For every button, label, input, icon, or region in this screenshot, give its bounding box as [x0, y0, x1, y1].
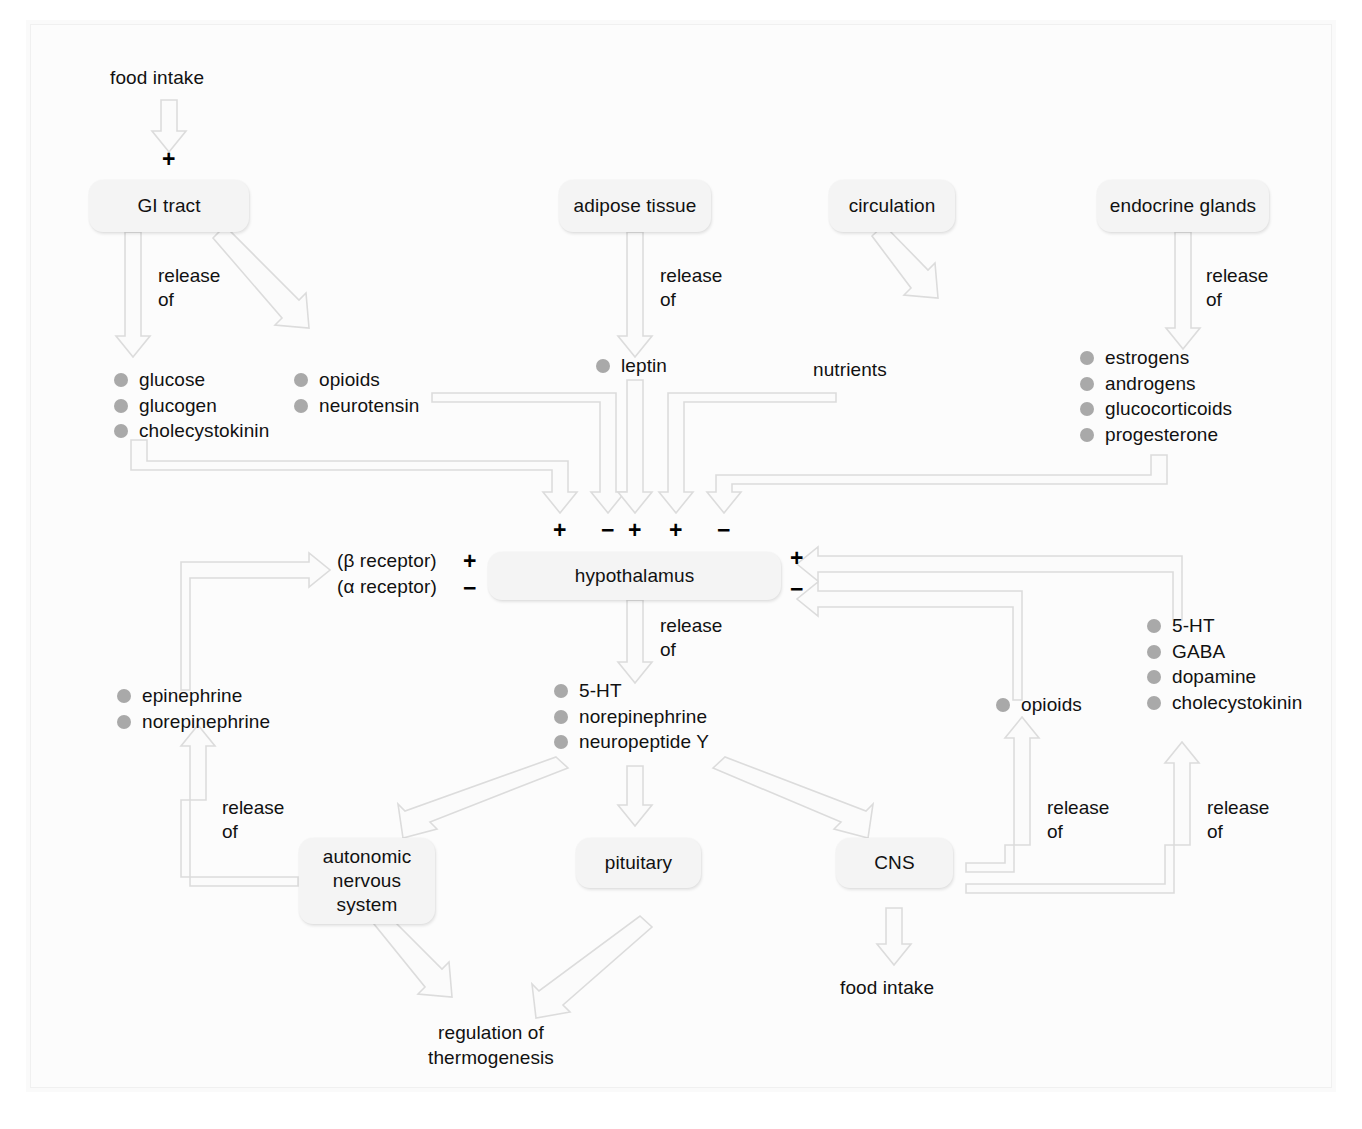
chem-group-adipose-product: leptin: [596, 353, 667, 379]
sign-hypothalamus-input-3: +: [628, 519, 641, 542]
chem-label: neurotensin: [319, 395, 419, 416]
node-cns-label: CNS: [874, 851, 914, 875]
chem-label: glucose: [139, 369, 205, 390]
label-food-intake-top: food intake: [110, 66, 204, 91]
chem-label: epinephrine: [142, 685, 242, 706]
node-cns[interactable]: CNS: [836, 838, 953, 888]
chem-item: estrogens: [1080, 345, 1232, 371]
label-adipose-release-of: release of: [660, 264, 722, 312]
chem-group-circulation-product: nutrients: [813, 357, 887, 383]
label-alpha-receptor: (α receptor): [337, 575, 437, 600]
chem-group-gi-peptides-right: opioids neurotensin: [294, 367, 419, 418]
chem-group-gi-hormones-left: glucose glucogen cholecystokinin: [114, 367, 269, 444]
sign-cns-feedback-plus: +: [790, 547, 803, 570]
label-gi-release-of: release of: [158, 264, 220, 312]
release-word: release: [660, 264, 722, 288]
of-word: of: [158, 288, 220, 312]
bullet-icon: [117, 689, 131, 703]
bullet-icon: [1080, 351, 1094, 365]
chem-label: progesterone: [1105, 424, 1218, 445]
release-word: release: [158, 264, 220, 288]
sign-alpha-receptor-minus: −: [463, 577, 476, 600]
node-hypothalamus-label: hypothalamus: [575, 564, 695, 588]
bullet-icon: [1080, 428, 1094, 442]
chem-item: progesterone: [1080, 422, 1232, 448]
bullet-icon: [1147, 670, 1161, 684]
of-word: of: [1047, 820, 1109, 844]
chem-item: opioids: [996, 692, 1082, 718]
chem-group-ans-catecholamines: epinephrine norepinephrine: [117, 683, 270, 734]
label-ans-release-of: release of: [222, 796, 284, 844]
node-autonomic-nervous-system[interactable]: autonomic nervous system: [299, 838, 435, 924]
bullet-icon: [294, 399, 308, 413]
sign-food-intake-plus: +: [162, 148, 175, 171]
of-word: of: [1207, 820, 1269, 844]
chem-label: glucogen: [139, 395, 217, 416]
bullet-icon: [1147, 696, 1161, 710]
chem-group-hypothalamus-transmitters: 5-HT norepinephrine neuropeptide Y: [554, 678, 709, 755]
chem-label: glucocorticoids: [1105, 398, 1232, 419]
node-circulation[interactable]: circulation: [829, 180, 955, 232]
chem-item: opioids: [294, 367, 419, 393]
bullet-icon: [554, 735, 568, 749]
node-adipose-tissue[interactable]: adipose tissue: [559, 180, 711, 232]
diagram-page: .aw{fill:#fbfbfb;stroke:#dcdcdc;stroke-w…: [0, 0, 1362, 1129]
sign-cns-feedback-minus: −: [790, 578, 803, 601]
of-word: of: [1206, 288, 1268, 312]
label-endocrine-release-of: release of: [1206, 264, 1268, 312]
node-endocrine-glands-label: endocrine glands: [1110, 194, 1256, 218]
node-endocrine-glands[interactable]: endocrine glands: [1097, 180, 1269, 232]
node-autonomic-nervous-system-label: autonomic nervous system: [323, 845, 412, 918]
chem-item: dopamine: [1147, 664, 1302, 690]
of-word: of: [660, 638, 722, 662]
chem-label: nutrients: [813, 359, 887, 380]
label-hypothalamus-release-of: release of: [660, 614, 722, 662]
chem-item: GABA: [1147, 639, 1302, 665]
label-beta-receptor: (β receptor): [337, 549, 437, 574]
chem-label: norepinephrine: [579, 706, 707, 727]
bullet-icon: [554, 710, 568, 724]
chem-item: leptin: [596, 353, 667, 379]
chem-item: cholecystokinin: [1147, 690, 1302, 716]
chem-item: neuropeptide Y: [554, 729, 709, 755]
chem-group-cns-opioids: opioids: [996, 692, 1082, 718]
chem-item: 5-HT: [1147, 613, 1302, 639]
node-pituitary-label: pituitary: [605, 851, 672, 875]
sign-hypothalamus-input-1: +: [553, 519, 566, 542]
release-word: release: [222, 796, 284, 820]
sign-hypothalamus-input-2: −: [601, 519, 614, 542]
node-circulation-label: circulation: [849, 194, 936, 218]
chem-label: androgens: [1105, 373, 1196, 394]
bullet-icon: [554, 684, 568, 698]
label-regulation-of-thermogenesis: regulation of thermogenesis: [428, 1020, 554, 1070]
node-gi-tract-label: GI tract: [137, 194, 200, 218]
chem-label: 5-HT: [579, 680, 622, 701]
sign-hypothalamus-input-5: −: [717, 519, 730, 542]
bullet-icon: [596, 359, 610, 373]
release-word: release: [1207, 796, 1269, 820]
chem-label: 5-HT: [1172, 615, 1215, 636]
chem-label: leptin: [621, 355, 667, 376]
sign-hypothalamus-input-4: +: [669, 519, 682, 542]
node-hypothalamus[interactable]: hypothalamus: [488, 552, 781, 600]
chem-item: cholecystokinin: [114, 418, 269, 444]
bullet-icon: [114, 399, 128, 413]
chem-label: GABA: [1172, 641, 1225, 662]
label-cns-opioid-release-of: release of: [1047, 796, 1109, 844]
chem-label: dopamine: [1172, 666, 1256, 687]
node-pituitary[interactable]: pituitary: [576, 838, 701, 888]
release-word: release: [1047, 796, 1109, 820]
label-food-intake-bottom: food intake: [840, 976, 934, 1001]
bullet-icon: [1080, 377, 1094, 391]
bullet-icon: [1147, 619, 1161, 633]
bullet-icon: [114, 424, 128, 438]
chem-label: opioids: [1021, 694, 1082, 715]
release-word: release: [1206, 264, 1268, 288]
chem-item: androgens: [1080, 371, 1232, 397]
chem-item: glucogen: [114, 393, 269, 419]
node-gi-tract[interactable]: GI tract: [89, 180, 249, 232]
label-cns-transmitter-release-of: release of: [1207, 796, 1269, 844]
chem-label: neuropeptide Y: [579, 731, 709, 752]
sign-beta-receptor-plus: +: [463, 550, 476, 573]
chem-item: epinephrine: [117, 683, 270, 709]
